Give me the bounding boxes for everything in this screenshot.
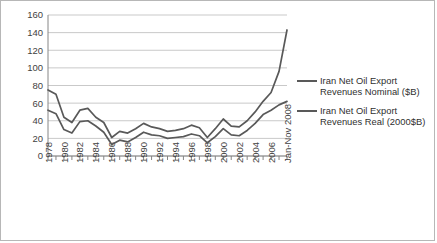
legend-item-nominal: Iran Net Oil Export Revenues Nominal ($B…	[297, 75, 433, 98]
y-tick-label-120: 120	[27, 45, 43, 56]
x-tick-label-1992: 1992	[154, 142, 165, 163]
x-tick-label-1996: 1996	[186, 142, 197, 163]
y-axis-tick-labels: 160140120100806040200	[27, 9, 43, 161]
line-chart-svg: 160140120100806040200 197819801982198419…	[1, 1, 293, 201]
plot-area: 160140120100806040200 197819801982198419…	[1, 1, 293, 201]
x-tick-label-1988: 1988	[122, 142, 133, 163]
x-tick-label-2000: 2000	[218, 142, 229, 163]
x-tick-label-Jan-Nov-2008: Jan-Nov 2008	[282, 104, 293, 163]
legend-line-swatch-real	[297, 110, 317, 112]
legend-item-real: Iran Net Oil Export Revenues Real (2000$…	[297, 105, 433, 128]
y-tick-label-160: 160	[27, 9, 43, 20]
gridlines-group	[48, 15, 287, 156]
x-tick-label-1980: 1980	[59, 142, 70, 163]
x-tick-label-2004: 2004	[250, 142, 261, 163]
data-series-group	[48, 30, 287, 145]
chart-frame: 160140120100806040200 197819801982198419…	[0, 0, 435, 241]
x-tick-label-1990: 1990	[138, 142, 149, 163]
x-tick-label-1982: 1982	[74, 142, 85, 163]
legend-label-nominal: Iran Net Oil Export Revenues Nominal ($B…	[320, 75, 433, 98]
y-tick-label-60: 60	[32, 98, 43, 109]
x-tick-label-1994: 1994	[170, 142, 181, 163]
y-tick-label-40: 40	[32, 115, 43, 126]
x-tick-label-1998: 1998	[202, 142, 213, 163]
x-tick-label-2006: 2006	[266, 142, 277, 163]
y-tick-label-80: 80	[32, 80, 43, 91]
x-tick-label-1984: 1984	[90, 142, 101, 163]
x-tick-label-2002: 2002	[234, 142, 245, 163]
legend-label-real: Iran Net Oil Export Revenues Real (2000$…	[320, 105, 433, 128]
y-tick-label-100: 100	[27, 62, 43, 73]
chart-legend: Iran Net Oil Export Revenues Nominal ($B…	[297, 75, 433, 135]
legend-line-swatch-nominal	[297, 80, 317, 82]
y-tick-label-20: 20	[32, 133, 43, 144]
x-tick-label-1978: 1978	[43, 142, 54, 163]
y-tick-label-140: 140	[27, 27, 43, 38]
